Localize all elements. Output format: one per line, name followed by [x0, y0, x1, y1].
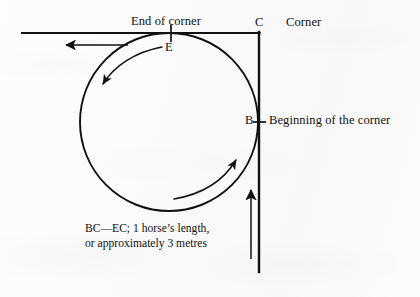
caption-line-1: BC—EC; 1 horse’s length, [85, 221, 209, 236]
label-point-e: E [165, 40, 173, 54]
label-end-of-corner: End of corner [131, 14, 201, 28]
caption-line-2: or approximately 3 metres [85, 236, 209, 251]
arrow-arc-lower-right [174, 160, 236, 199]
diagram-artwork [0, 0, 420, 297]
corner-circle [80, 33, 258, 211]
corner-diagram-figure: End of corner C Corner E B Beginning of … [0, 0, 420, 297]
label-beginning-of-the-corner: Beginning of the corner [269, 113, 390, 127]
label-corner-point-c: C [255, 15, 263, 29]
figure-caption: BC—EC; 1 horse’s length, or approximatel… [85, 221, 209, 252]
label-point-b: B [245, 113, 253, 127]
label-corner: Corner [286, 15, 321, 29]
